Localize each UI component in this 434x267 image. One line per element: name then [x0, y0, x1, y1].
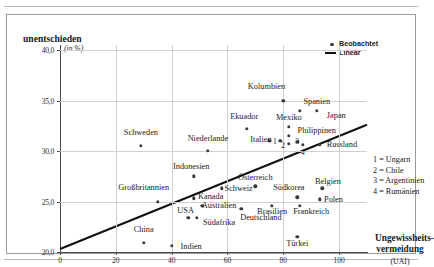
data-point-number-label: 2	[281, 140, 285, 149]
y-axis-tick	[57, 202, 60, 203]
x-axis-title-line1: Ungewissheits-	[375, 233, 434, 243]
data-point-label: Indien	[181, 241, 202, 250]
x-axis-tick	[116, 252, 117, 255]
x-axis-tick-label: 80	[268, 256, 298, 265]
footnote-3: 3 = Argentinien	[373, 176, 424, 187]
y-axis-tick-label: 40,0	[20, 46, 54, 55]
x-axis-title-unit: (UAI)	[375, 256, 425, 267]
data-point-label: Indonesien	[173, 162, 209, 171]
data-point-label: Südafrika	[203, 217, 235, 226]
data-point-label: Spanien	[303, 96, 330, 105]
x-axis-tick	[60, 252, 61, 255]
x-axis-tick	[227, 252, 228, 255]
x-axis-tick	[172, 252, 173, 255]
data-point-label: Kolumbien	[248, 82, 285, 91]
data-point-label: Philippinen	[298, 125, 336, 134]
gridline-horizontal	[60, 50, 367, 51]
data-point-label: Italien	[250, 134, 271, 143]
footnote-4: 4 = Rumänien	[373, 187, 424, 198]
y-axis-tick-label: 35,0	[20, 97, 54, 106]
x-axis-tick-label: 60	[212, 256, 242, 265]
data-point-label: China	[134, 224, 154, 233]
data-point-number-label: 1	[273, 136, 277, 145]
data-point-label: Schweden	[124, 127, 158, 136]
plot-area: SchwedenNiederlandeKolumbienSpanienJapan…	[60, 45, 367, 252]
data-point-label: Australien	[202, 200, 237, 209]
x-axis-tick-label: 0	[45, 256, 75, 265]
page-rule-top	[4, 6, 418, 7]
footnote-1: 1 = Ungarn	[373, 155, 424, 166]
x-axis-title-line2: vermeidung	[376, 244, 424, 254]
x-axis-tick-label: 40	[157, 256, 187, 265]
x-axis-tick	[283, 252, 284, 255]
data-point-label: Ekuador	[230, 111, 258, 120]
gridline-horizontal	[60, 151, 367, 152]
data-point-label: Großbritannien	[118, 183, 169, 192]
y-axis-tick	[57, 151, 60, 152]
gridline-vertical	[339, 45, 340, 252]
y-axis-tick	[57, 50, 60, 51]
y-axis-tick-label: 25,0	[20, 198, 54, 207]
y-axis-tick	[57, 252, 60, 253]
data-point-label: Schweiz	[225, 184, 253, 193]
footnote-key: 1 = Ungarn 2 = Chile 3 = Argentinien 4 =…	[373, 155, 424, 197]
data-point-label: Frankreich	[293, 206, 329, 215]
data-point-label: Belgien	[315, 177, 341, 186]
y-axis-tick	[57, 101, 60, 102]
x-axis-tick-label: 100	[324, 256, 354, 265]
data-point-label: Türkei	[286, 238, 308, 247]
data-point-number-label: 3	[295, 136, 299, 145]
footnote-2: 2 = Chile	[373, 166, 424, 177]
gridline-vertical	[172, 45, 173, 252]
gridline-vertical	[116, 45, 117, 252]
data-point-label: Russland	[327, 139, 357, 148]
data-point-label: Mexiko	[276, 112, 302, 121]
data-point-label: USA	[177, 205, 194, 214]
data-point-label: Südkorea	[273, 183, 304, 192]
y-axis-title: unentschieden	[23, 33, 82, 44]
x-axis-line	[60, 252, 368, 253]
x-axis-title: Ungewissheits- vermeidung (UAI)	[375, 233, 425, 267]
data-point-label: Deutschland	[240, 212, 281, 221]
x-axis-tick-label: 20	[101, 256, 131, 265]
data-point-label: Niederlande	[188, 133, 229, 142]
data-point-number-label: 4	[301, 148, 305, 157]
x-axis-tick	[339, 252, 340, 255]
y-axis-tick-label: 20,0	[20, 248, 54, 257]
data-point-label: Japan	[327, 110, 346, 119]
y-axis-tick-label: 30,0	[20, 147, 54, 156]
data-point-label: Österreich	[238, 173, 273, 182]
chart-frame: unentschieden (in %) Beobachtet Linear 1…	[6, 14, 416, 254]
data-point-label: Polen	[324, 195, 343, 204]
